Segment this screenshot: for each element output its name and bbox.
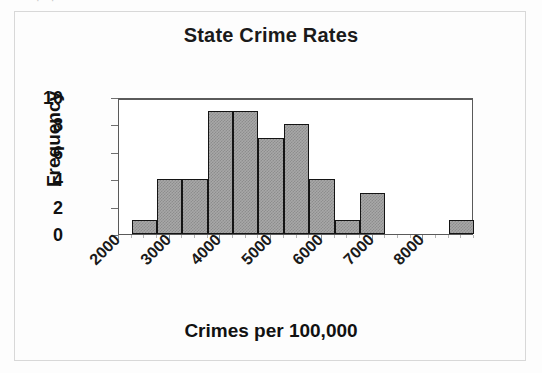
x-axis-minor-tick [181,235,182,238]
scan-artifact: · · [36,0,76,6]
y-axis-tick-label: 10 [23,89,63,107]
y-axis-tick-mark [111,208,118,209]
y-axis-tick-mark [111,180,118,181]
histogram-bars [119,100,472,234]
x-axis-minor-tick [435,235,436,238]
y-axis-tick-label: 0 [23,226,63,244]
x-axis-minor-tick [346,235,347,238]
x-axis-minor-tick [245,235,246,238]
plot-area [118,98,473,235]
histogram-bar [182,179,207,234]
x-axis-minor-tick [143,235,144,238]
y-axis-tick-label: 8 [23,116,63,134]
x-axis-minor-tick [283,235,284,238]
x-axis-tick-label: 2000 [86,231,124,269]
histogram-bar [284,124,309,234]
histogram-bar [157,179,182,234]
x-axis-minor-tick [384,235,385,238]
histogram-bar [208,111,233,234]
y-axis-tick-label: 4 [23,171,63,189]
histogram-bar [335,220,360,234]
histogram-bar [449,220,474,234]
x-axis-minor-tick [448,235,449,238]
chart-title: State Crime Rates [0,24,542,47]
y-axis-tick-label: 6 [23,144,63,162]
histogram-bar [258,138,283,234]
histogram-bar [309,179,334,234]
x-axis-minor-tick [194,235,195,238]
x-axis-minor-tick [296,235,297,238]
histogram-bar [360,193,385,234]
y-axis-tick-mark [111,153,118,154]
x-axis-minor-tick [131,235,132,238]
chart-figure: · · State Crime Rates Frequency 0246810 … [0,0,542,373]
x-axis-minor-tick [334,235,335,238]
histogram-bar [132,220,157,234]
y-axis-tick-mark [111,125,118,126]
x-axis-minor-tick [232,235,233,238]
x-axis-minor-tick [473,235,474,238]
y-axis-tick-label: 2 [23,199,63,217]
x-axis-minor-tick [460,235,461,238]
x-axis-minor-tick [397,235,398,238]
histogram-bar [233,111,258,234]
y-axis-tick-mark [111,98,118,99]
x-axis-label: Crimes per 100,000 [0,320,542,342]
